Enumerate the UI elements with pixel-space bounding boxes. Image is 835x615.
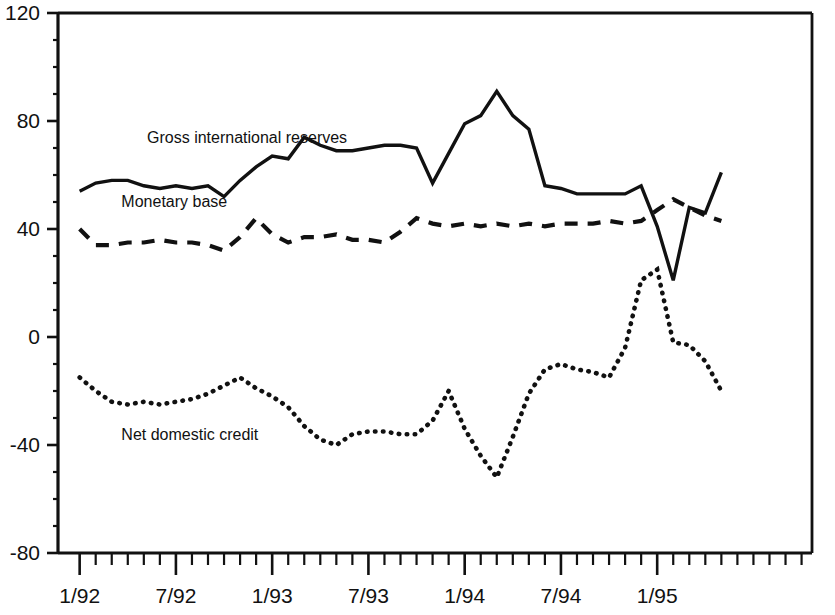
- x-axis: 1/927/921/937/931/947/941/95: [59, 553, 801, 607]
- y-tick-label-120: 120: [5, 1, 40, 24]
- series-label-monetary-base: Monetary base: [121, 193, 227, 210]
- y-tick-label--40: -40: [10, 433, 40, 456]
- x-tick-label-7-92: 7/92: [155, 584, 196, 607]
- series-line-net-domestic-credit: [80, 270, 722, 478]
- x-tick-label-7-93: 7/93: [348, 584, 389, 607]
- series-line-gross-international-reserves: [80, 91, 722, 280]
- y-tick-label-0: 0: [28, 325, 40, 348]
- y-tick-label-40: 40: [17, 217, 40, 240]
- x-tick-label-7-94: 7/94: [540, 584, 581, 607]
- series-annotations: Gross international reservesMonetary bas…: [121, 129, 347, 443]
- x-tick-label-1-95: 1/95: [637, 584, 678, 607]
- chart-container: -80-4004080120 1/927/921/937/931/947/941…: [0, 0, 835, 615]
- plot-frame: [58, 13, 812, 553]
- y-axis: -80-4004080120: [5, 1, 58, 564]
- data-series-group: [80, 91, 722, 477]
- line-chart: -80-4004080120 1/927/921/937/931/947/941…: [0, 0, 835, 615]
- x-tick-label-1-94: 1/94: [444, 584, 485, 607]
- x-tick-label-1-92: 1/92: [59, 584, 100, 607]
- x-tick-label-1-93: 1/93: [252, 584, 293, 607]
- series-label-net-domestic-credit: Net domestic credit: [121, 426, 258, 443]
- y-tick-label--80: -80: [10, 541, 40, 564]
- series-label-gross-international-reserves: Gross international reserves: [147, 129, 347, 146]
- y-tick-label-80: 80: [17, 109, 40, 132]
